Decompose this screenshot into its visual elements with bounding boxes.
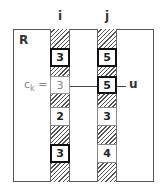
region-frame (13, 29, 154, 182)
region-label: R (19, 33, 28, 47)
cell-j-1: 5 (97, 48, 117, 67)
column-label-j: j (97, 9, 117, 23)
cell-i-3: 2 (50, 107, 70, 126)
u-annotation: u (129, 77, 138, 91)
ck-annotation: ck = (24, 78, 47, 93)
cell-i-1: 3 (50, 48, 70, 67)
connector-line-u (117, 86, 126, 87)
cell-j-3: 3 (97, 107, 117, 126)
cell-j-2: 5 (97, 76, 117, 94)
column-label-i: i (50, 9, 70, 23)
cell-j-4: 4 (97, 144, 117, 163)
cell-i-4: 3 (50, 144, 70, 163)
connector-line (70, 86, 97, 87)
cell-i-2: 3 (50, 76, 70, 94)
